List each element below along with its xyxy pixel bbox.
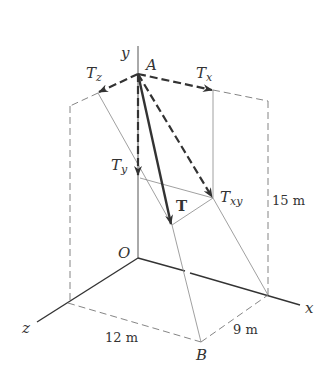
tz-label: Tz: [86, 64, 102, 84]
t-label: T: [176, 197, 188, 215]
box-outline: [68, 90, 268, 342]
y-axis-label: y: [120, 44, 130, 62]
vectors: [99, 74, 212, 224]
x-extent-dimension: 9 m: [233, 322, 258, 337]
z-axis-label: z: [21, 319, 30, 337]
axes: [37, 46, 300, 322]
construction-lines: [98, 90, 268, 342]
ty-label: Ty: [111, 156, 128, 176]
z-extent-dimension: 12 m: [105, 330, 138, 345]
force-diagram: y x z O A B Tz Tx Ty Txy T 15 m 12 m 9 m: [0, 0, 333, 388]
height-dimension: 15 m: [272, 193, 305, 208]
z-axis: [37, 258, 138, 322]
vector-tz: [99, 74, 138, 92]
point-b-label: B: [195, 346, 207, 364]
x-axis: [190, 273, 300, 305]
txy-label: Txy: [220, 188, 243, 208]
vector-t: [138, 74, 171, 224]
tx-label: Tx: [196, 64, 213, 84]
origin-label: O: [118, 244, 130, 262]
x-axis-label: x: [305, 299, 314, 317]
point-a-label: A: [144, 56, 157, 74]
vector-txy: [138, 74, 212, 197]
x-axis: [138, 258, 185, 271]
